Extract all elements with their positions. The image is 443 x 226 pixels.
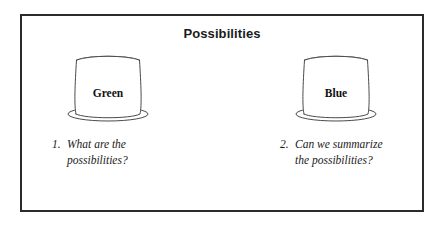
hat-green: Green: [65, 54, 151, 124]
hat-blue: Blue: [293, 54, 379, 124]
top-hat-icon: [293, 54, 379, 124]
caption-blue-text2: the possibilities?: [295, 154, 373, 166]
caption-green-number: 1.: [52, 137, 67, 153]
caption-blue-line1: 2.Can we summarize: [280, 137, 402, 153]
top-hat-icon: [65, 54, 151, 124]
caption-blue-text1: Can we summarize: [295, 138, 383, 150]
caption-green: 1.What are the possibilities?: [42, 137, 174, 168]
column-blue: Blue 2.Can we summarize the possibilitie…: [256, 54, 416, 168]
columns-container: Green 1.What are the possibilities? Blue: [22, 54, 422, 204]
caption-green-line1: 1.What are the: [52, 137, 174, 153]
caption-blue-line2: the possibilities?: [280, 153, 402, 169]
column-green: Green 1.What are the possibilities?: [28, 54, 188, 168]
figure-root: Possibilities Green 1.What are: [0, 0, 443, 226]
caption-blue: 2.Can we summarize the possibilities?: [270, 137, 402, 168]
page-title: Possibilities: [22, 26, 422, 41]
caption-green-line2: possibilities?: [52, 153, 174, 169]
caption-green-text2: possibilities?: [67, 154, 128, 166]
caption-blue-number: 2.: [280, 137, 295, 153]
caption-green-text1: What are the: [67, 138, 126, 150]
panel-frame: Possibilities Green 1.What are: [20, 14, 424, 212]
